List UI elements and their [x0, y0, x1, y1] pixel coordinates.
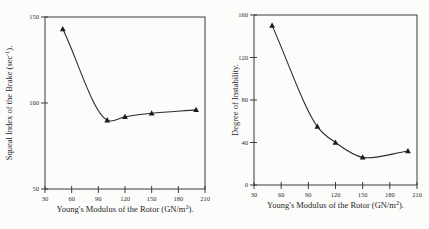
x-tick-label: 180: [385, 191, 395, 198]
y-axis-title: Degree of Instability.: [230, 64, 240, 136]
y-tick-label: 0: [245, 181, 248, 188]
x-tick-label: 210: [412, 191, 422, 198]
y-tick-label: 150: [29, 13, 39, 20]
data-point-marker: [104, 117, 110, 122]
x-axis-title: Young's Modulus of the Rotor (GN/m2).: [57, 204, 194, 214]
x-axis-title: Young's Modulus of the Rotor (GN/m2).: [267, 200, 404, 210]
data-point-marker: [333, 139, 339, 144]
y-axis-title: Squeal Index of the Brake (sec-1).: [4, 46, 14, 161]
data-point-marker: [193, 107, 199, 112]
x-tick-label: 30: [251, 191, 258, 198]
figure-canvas: 30609012015018021050100150Young's Modulu…: [0, 0, 429, 229]
squeal-index-vs-modulus-chart: 30609012015018021050100150Young's Modulu…: [4, 13, 210, 214]
y-tick-label: 40: [242, 139, 249, 146]
x-tick-label: 120: [120, 195, 130, 202]
x-tick-label: 150: [147, 195, 157, 202]
x-tick-label: 180: [173, 195, 183, 202]
x-tick-label: 210: [200, 195, 210, 202]
x-tick-label: 60: [68, 195, 75, 202]
dual-line-chart-figure: 30609012015018021050100150Young's Modulu…: [0, 0, 429, 229]
x-tick-label: 150: [358, 191, 368, 198]
x-tick-label: 120: [331, 191, 341, 198]
data-series-line: [272, 26, 408, 158]
data-series-line: [63, 29, 196, 121]
y-tick-label: 160: [238, 11, 248, 18]
data-point-marker: [60, 26, 66, 31]
x-tick-label: 30: [42, 195, 49, 202]
y-tick-label: 50: [33, 185, 40, 192]
data-point-marker: [405, 148, 411, 153]
x-tick-label: 60: [278, 191, 285, 198]
instability-vs-modulus-chart: 30609012015018021004080120160Young's Mod…: [230, 11, 422, 210]
x-tick-label: 90: [95, 195, 102, 202]
y-tick-label: 100: [29, 99, 39, 106]
data-point-marker: [269, 23, 275, 28]
y-tick-label: 120: [238, 54, 248, 61]
y-tick-label: 80: [242, 96, 249, 103]
x-tick-label: 90: [305, 191, 312, 198]
